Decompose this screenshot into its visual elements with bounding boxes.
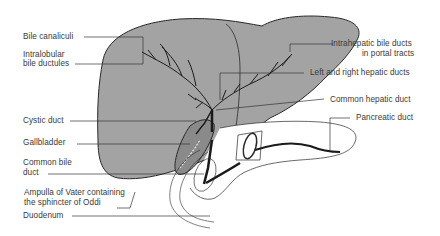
label-gallbladder: Gallbladder <box>23 138 65 148</box>
label-hepatic-ducts: Left and right hepatic ducts <box>310 68 410 78</box>
label-bile-canaliculi: Bile canaliculi <box>23 32 73 42</box>
label-pancreatic-duct: Pancreatic duct <box>356 113 413 123</box>
label-ampulla-line2: the sphincter of Oddi <box>24 198 101 208</box>
label-ampulla-line1: Ampulla of Vater containing <box>24 188 125 198</box>
label-common-bile-line2: duct <box>23 168 39 178</box>
label-duodenum: Duodenum <box>23 211 63 221</box>
label-common-hepatic: Common hepatic duct <box>330 95 411 105</box>
label-cystic-duct: Cystic duct <box>23 116 64 126</box>
label-intrahepatic-line2: in portal tracts <box>362 49 414 59</box>
label-common-bile-line1: Common bile <box>23 158 72 168</box>
biliary-anatomy-diagram: Bile canaliculi Intralobular bile ductul… <box>0 0 440 236</box>
label-intrahepatic-line1: Intrahepatic bile ducts <box>331 39 412 49</box>
label-intralobular-line2: bile ductules <box>23 59 69 69</box>
